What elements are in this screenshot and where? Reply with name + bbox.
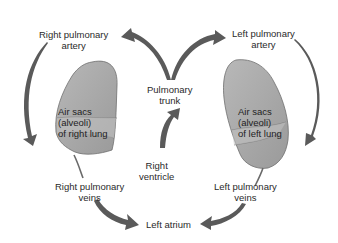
label-left-atrium: Left atrium (146, 219, 191, 230)
trunk-to-right-artery-arrow (121, 28, 171, 80)
pulmonary-circulation-diagram: Right pulmonary artery Left pulmonary ar… (0, 0, 338, 243)
left-artery-to-lung-arrow (294, 39, 320, 146)
label-pulmonary-trunk: Pulmonary trunk (147, 84, 192, 106)
right-artery-to-lung-arrow (23, 42, 48, 146)
label-left-lung: Air sacs (alveoli) of left lung (238, 106, 282, 139)
left-veins-to-atrium-arrow (200, 203, 246, 230)
ventricle-to-trunk-arrow (160, 108, 180, 148)
label-right-pulmonary-artery: Right pulmonary artery (39, 29, 108, 51)
label-right-pulmonary-veins: Right pulmonary veins (55, 181, 124, 203)
label-right-ventricle: Right ventricle (139, 160, 174, 182)
label-right-lung: Air sacs (alveoli) of right lung (58, 106, 108, 139)
label-left-pulmonary-artery: Left pulmonary artery (232, 28, 295, 50)
trunk-to-left-artery-arrow (171, 30, 226, 80)
right-veins-to-atrium-arrow (94, 199, 139, 230)
label-left-pulmonary-veins: Left pulmonary veins (214, 181, 277, 203)
